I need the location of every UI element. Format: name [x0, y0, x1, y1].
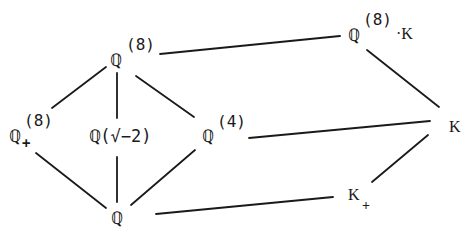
node-q: ℚ — [112, 210, 122, 227]
edge-q8-q4 — [136, 76, 194, 117]
node-q-base: ℚ — [112, 208, 122, 228]
node-q8plus-sup: (8) — [24, 113, 53, 129]
node-q4: ℚ (4) — [203, 128, 213, 145]
node-q8plus: ℚ (8) + — [10, 128, 20, 145]
node-q8k-base: ℚ — [349, 25, 359, 45]
node-q8plus-sub: + — [22, 136, 30, 150]
edge-kplus-k — [372, 135, 428, 182]
node-kplus-sub: + — [362, 199, 370, 213]
node-q8-sup: (8) — [126, 37, 155, 53]
node-k: K — [449, 119, 461, 135]
node-q8-base: ℚ — [111, 50, 121, 70]
node-q4-sup: (4) — [217, 114, 246, 130]
node-q8k-suffix: ·K — [396, 26, 413, 42]
edge-q8-q8k — [160, 36, 340, 54]
edge-q8plus-q — [36, 153, 106, 208]
node-q8plus-base: ℚ — [10, 126, 20, 146]
node-qsqrt-base: ℚ — [90, 126, 100, 146]
node-q8k: ℚ (8) ·K — [349, 27, 359, 44]
node-k-base: K — [449, 118, 461, 135]
edge-q8k-k — [367, 50, 439, 107]
node-q8k-sup: (8) — [363, 12, 392, 28]
node-kplus-base: K — [348, 186, 360, 203]
edge-q-kplus — [156, 197, 333, 214]
edge-q4-k — [249, 121, 430, 138]
edge-q8-q8plus — [52, 67, 106, 108]
node-qsqrt-rest: (√−2) — [100, 126, 151, 146]
node-q4-base: ℚ — [203, 126, 213, 146]
node-q8: ℚ (8) — [111, 52, 121, 69]
node-kplus: K + — [348, 187, 360, 203]
node-qsqrt: ℚ(√−2) — [90, 128, 151, 145]
edge-q4-q — [131, 150, 195, 205]
